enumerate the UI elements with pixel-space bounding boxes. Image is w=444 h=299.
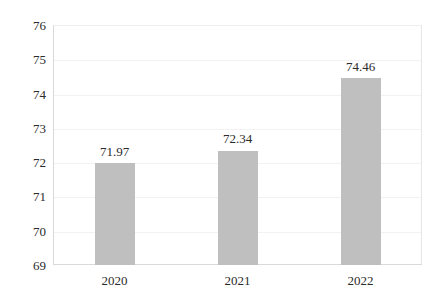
bar[interactable] bbox=[218, 151, 258, 266]
bar-value-label: 74.46 bbox=[346, 60, 375, 73]
x-axis-category-label: 2022 bbox=[348, 274, 374, 287]
bar-chart: 6970717273747576 71.9772.3474.46 2020202… bbox=[0, 0, 444, 299]
y-axis-tick-label: 69 bbox=[6, 259, 46, 272]
x-axis-category-labels: 202020212022 bbox=[53, 267, 422, 293]
y-axis-tick-label: 75 bbox=[6, 53, 46, 66]
bar-slot: 74.46 bbox=[299, 25, 422, 265]
bar-value-label: 72.34 bbox=[223, 132, 252, 145]
x-axis-category-label: 2021 bbox=[225, 274, 251, 287]
bar[interactable] bbox=[95, 163, 135, 265]
bar-slot: 72.34 bbox=[176, 25, 299, 265]
y-axis-tick-label: 73 bbox=[6, 121, 46, 134]
y-axis-tick-label: 72 bbox=[6, 156, 46, 169]
x-axis-category-label: 2020 bbox=[102, 274, 128, 287]
y-axis-tick-label: 70 bbox=[6, 224, 46, 237]
bar-slot: 71.97 bbox=[53, 25, 176, 265]
y-axis-tick-label: 74 bbox=[6, 87, 46, 100]
bars-group: 71.9772.3474.46 bbox=[53, 25, 422, 265]
y-axis-tick-label: 76 bbox=[6, 19, 46, 32]
bar-value-label: 71.97 bbox=[100, 145, 129, 158]
y-axis-tick-label: 71 bbox=[6, 190, 46, 203]
bar[interactable] bbox=[341, 78, 381, 265]
